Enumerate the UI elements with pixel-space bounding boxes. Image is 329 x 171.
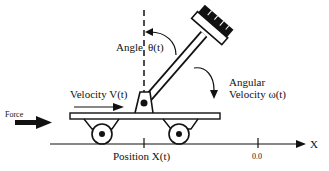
angle-arrow-icon — [145, 28, 153, 36]
angular-velocity-label-line1: Angular — [229, 76, 265, 88]
pivot-joint — [141, 100, 148, 107]
force-arrow-shaft — [15, 120, 39, 125]
inverted-pendulum-diagram: Angle θ(t) Angular Velocity ω(t) Velocit… — [0, 0, 329, 171]
velocity-label: Velocity V(t) — [70, 88, 128, 101]
angular-velocity-label-line2: Velocity ω(t) — [229, 88, 286, 101]
force-arrow-icon — [36, 116, 52, 129]
x-axis-label: X — [310, 138, 318, 150]
angle-label-word: Angle — [116, 41, 143, 53]
velocity-arrow-icon — [113, 103, 124, 111]
angle-label-symbol: θ(t) — [148, 41, 164, 54]
right-wheel — [163, 119, 198, 144]
force-label: Force — [5, 110, 24, 119]
left-wheel — [84, 119, 119, 144]
x-axis-arrow-icon — [296, 140, 306, 148]
cart-platform — [70, 113, 220, 119]
angular-velocity-arrow-icon — [210, 90, 218, 99]
angular-velocity-arc — [194, 68, 214, 90]
origin-label: 0.0 — [252, 152, 262, 161]
position-label: Position X(t) — [113, 150, 170, 163]
